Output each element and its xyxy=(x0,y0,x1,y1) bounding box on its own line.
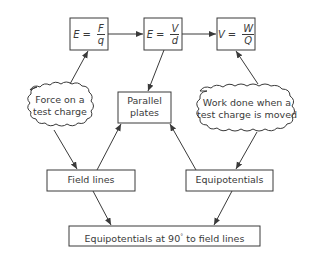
arrow-fieldlines-to-conclusion xyxy=(93,191,111,225)
arrow-evd-to-plates xyxy=(148,50,164,91)
arrow-equip-to-plates xyxy=(170,124,196,170)
denominator: q xyxy=(98,35,104,46)
equals-sign: = xyxy=(156,29,164,40)
label-line: plates xyxy=(118,107,171,119)
label-line: Parallel xyxy=(118,95,171,107)
fraction: V d xyxy=(170,23,179,46)
parallel-plates-label: Parallel plates xyxy=(118,95,171,119)
arrow-work-to-vwq xyxy=(236,51,258,84)
fraction: W Q xyxy=(242,23,254,46)
formula-lhs: V xyxy=(218,29,225,40)
label-line: test charge xyxy=(24,106,96,118)
work-cloud-label: Work done when a test charge is moved xyxy=(190,97,304,121)
arrow-equip-to-conclusion xyxy=(214,191,232,225)
denominator: Q xyxy=(244,35,252,46)
label-line: Force on a xyxy=(24,94,96,106)
arrow-force-to-efq xyxy=(70,51,88,84)
numerator: W xyxy=(242,23,254,35)
conclusion-label: Equipotentials at 90° to field lines xyxy=(69,230,260,245)
formula-v-w-q: V = W Q xyxy=(217,18,255,50)
force-cloud-label: Force on a test charge xyxy=(24,94,96,118)
formula-lhs: E xyxy=(147,29,153,40)
denominator: d xyxy=(172,35,178,46)
label-line: test charge is moved xyxy=(190,109,304,121)
formula-e-f-q: E = F q xyxy=(70,18,108,50)
equals-sign: = xyxy=(83,29,91,40)
conclusion-rest: to field lines xyxy=(183,233,244,244)
equals-sign: = xyxy=(228,29,236,40)
field-lines-label: Field lines xyxy=(47,174,135,186)
numerator: F xyxy=(97,23,105,35)
numerator: V xyxy=(170,23,179,35)
formula-lhs: E xyxy=(73,29,79,40)
fraction: F q xyxy=(97,23,105,46)
equipotentials-label: Equipotentials xyxy=(186,174,273,186)
label-line: Work done when a xyxy=(190,97,304,109)
arrow-work-to-equip xyxy=(236,132,257,169)
conclusion-text: Equipotentials at 90 xyxy=(85,233,181,244)
arrow-fieldlines-to-plates xyxy=(97,124,121,170)
formula-e-v-d: E = V d xyxy=(144,18,182,50)
arrow-force-to-fieldlines xyxy=(54,130,77,169)
